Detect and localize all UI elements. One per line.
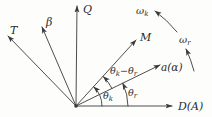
q-axis-label: Q (83, 3, 92, 16)
beta-axis-label: β (45, 16, 52, 29)
origin-dot (74, 104, 78, 108)
reference-frame-diagram: Q T β M a(α) D(A) ωk ωr θk θr θk−θr (0, 0, 212, 117)
m-axis-label: M (139, 31, 152, 44)
d-axis-label: D(A) (177, 100, 203, 113)
a-axis-label: a(α) (161, 61, 183, 73)
